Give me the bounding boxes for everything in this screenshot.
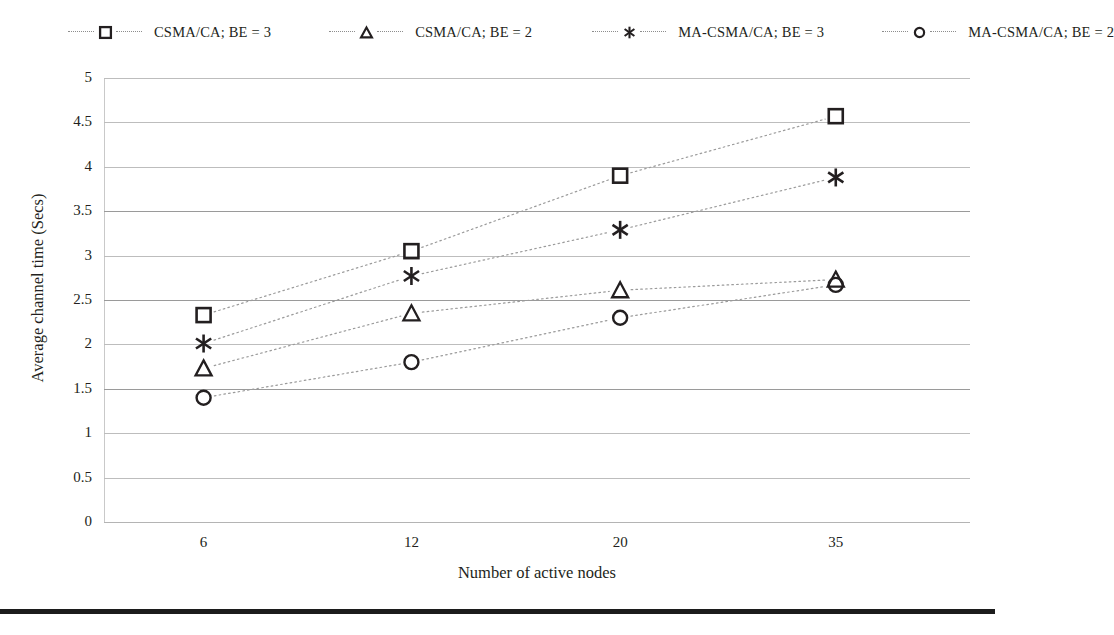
y-axis-tick-label: 1 (48, 425, 92, 440)
legend-label: MA-CSMA/CA; BE = 3 (678, 24, 824, 41)
legend-item-ma-csma-be3: MA-CSMA/CA; BE = 3 (592, 21, 824, 43)
legend-line-segment-left (68, 31, 94, 33)
series-connector (631, 180, 825, 227)
series-connector (214, 254, 401, 311)
series-3 (196, 168, 843, 352)
triangle-marker-icon (612, 282, 628, 297)
asterisk-marker-icon (828, 168, 843, 186)
series-connector (214, 316, 401, 365)
y-axis-tick-label: 2 (48, 336, 92, 351)
triangle-marker-icon (403, 305, 419, 320)
y-axis-tick-label: 2.5 (48, 292, 92, 307)
square-marker-icon (613, 169, 627, 183)
legend-line-segment-left (592, 31, 618, 33)
series-connector (422, 232, 609, 273)
x-axis-tick-label: 35 (828, 534, 843, 551)
series-connector (422, 291, 609, 312)
asterisk-marker-icon (404, 267, 419, 285)
y-axis-tick-label: 4.5 (48, 114, 92, 129)
y-axis-tick-label: 3.5 (48, 203, 92, 218)
square-marker-icon (829, 109, 843, 123)
bottom-rule (0, 609, 995, 614)
y-axis-tick-label: 5 (48, 70, 92, 85)
series-connector (631, 280, 825, 290)
series-4 (197, 278, 843, 405)
x-axis-tick-label: 12 (404, 534, 419, 551)
gridline (104, 522, 970, 523)
x-axis-tick-labels: 6122035 (104, 534, 970, 558)
asterisk-marker-icon (618, 21, 640, 43)
series-connector (214, 364, 400, 396)
plot-area (104, 78, 970, 522)
series-1 (197, 109, 843, 322)
circle-marker-icon (404, 355, 418, 369)
circle-marker-icon (829, 278, 843, 292)
legend-label: MA-CSMA/CA; BE = 2 (968, 24, 1114, 41)
y-axis-tick-label: 0.5 (48, 470, 92, 485)
legend-line-segment-left (882, 31, 908, 33)
legend-item-ma-csma-be2: MA-CSMA/CA; BE = 2 (882, 21, 1114, 43)
circle-marker-icon (908, 21, 930, 43)
series-connector (422, 320, 609, 360)
circle-marker-icon (613, 311, 627, 325)
legend-line-segment-right (930, 31, 956, 33)
square-marker-icon (94, 21, 116, 43)
y-axis-tick-label: 4 (48, 159, 92, 174)
x-axis-tick-label: 6 (200, 534, 208, 551)
y-axis-title: Average channel time (Secs) (28, 128, 48, 448)
y-axis-tick-label: 3 (48, 248, 92, 263)
legend-item-csma-be3: CSMA/CA; BE = 3 (68, 21, 271, 43)
y-axis-tick-label: 1.5 (48, 381, 92, 396)
y-axis-tick-label: 0 (48, 514, 92, 529)
asterisk-marker-icon (613, 221, 628, 239)
legend-line-segment-right (377, 31, 403, 33)
legend-item-csma-be2: CSMA/CA; BE = 2 (329, 21, 532, 43)
series-connector (631, 119, 825, 173)
legend-label: CSMA/CA; BE = 2 (415, 24, 532, 41)
triangle-marker-icon (355, 21, 377, 43)
series-connector (214, 279, 401, 340)
square-marker-icon (404, 244, 418, 258)
series-connector (422, 179, 610, 247)
legend-line-segment-left (329, 31, 355, 33)
legend-label: CSMA/CA; BE = 3 (154, 24, 271, 41)
asterisk-marker-icon (196, 335, 211, 353)
x-axis-title: Number of active nodes (104, 563, 970, 583)
legend-line-segment-right (116, 31, 142, 33)
series-connector (631, 287, 825, 317)
triangle-marker-icon (196, 360, 212, 375)
series-layer (104, 78, 970, 522)
x-axis-tick-label: 20 (613, 534, 628, 551)
chart-legend: CSMA/CA; BE = 3 CSMA/CA; BE = 2 (60, 14, 960, 50)
square-marker-icon (197, 308, 211, 322)
legend-line-segment-right (640, 31, 666, 33)
circle-marker-icon (197, 391, 211, 405)
